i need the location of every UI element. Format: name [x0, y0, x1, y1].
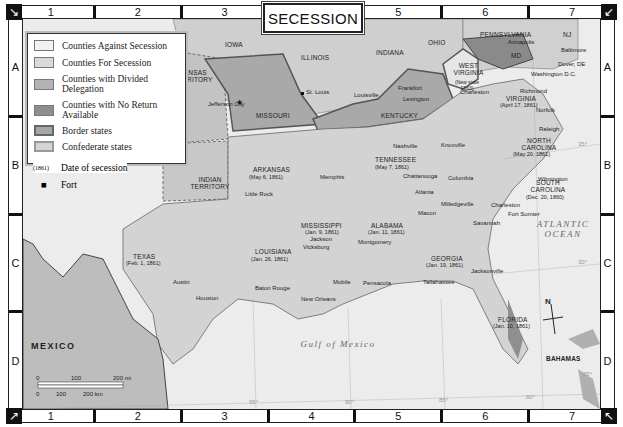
city-norfolk: Norfolk — [536, 107, 555, 113]
grid-row-d: D — [9, 313, 22, 408]
graticule-90 — [348, 309, 351, 409]
label-tennessee-date: (May 7, 1861) — [375, 164, 409, 170]
label-virginia: VIRGINIA — [506, 95, 536, 102]
legend-swatch — [34, 125, 54, 136]
label-texas-date: (Feb. 1, 1861) — [126, 260, 161, 266]
legend-swatch — [34, 57, 54, 68]
city-dot-icon — [301, 92, 304, 95]
scale-mi-0: 0 — [36, 375, 39, 381]
legend-date-label: Date of secession — [61, 163, 127, 173]
city-knoxville: Knoxville — [441, 142, 465, 148]
label-alabama: ALABAMA — [371, 222, 403, 229]
label-mississippi-date: (Jan. 9, 1861) — [305, 229, 339, 235]
city-dover: Dover, DE — [558, 61, 585, 67]
legend-fort-label: Fort — [61, 180, 77, 190]
scale-km-0: 0 — [36, 391, 39, 397]
city-raleigh: Raleigh — [539, 126, 559, 132]
grid-col-3: 3 — [183, 410, 270, 422]
scale-mi-100: 100 — [71, 375, 81, 381]
city-mobile: Mobile — [333, 279, 351, 285]
city-milledgeville: Milledgeville — [441, 201, 474, 207]
compass-rose — [543, 304, 563, 334]
label-florida-date: (Jan. 10, 1861) — [493, 323, 530, 329]
label-georgia: GEORGIA — [431, 255, 463, 262]
label-indiana: INDIANA — [376, 49, 404, 56]
label-louisiana: LOUISIANA — [255, 248, 291, 255]
city-chattanooga: Chattanooga — [403, 173, 437, 179]
grid-col-6: 6 — [443, 6, 530, 18]
legend-label: Counties For Secession — [62, 58, 151, 68]
corner-arrow-icon: ↘ — [6, 4, 22, 20]
legend-item: Counties with Divided Delegation — [34, 74, 162, 94]
grid-col-5: 5 — [356, 410, 443, 422]
legend-swatch — [34, 40, 54, 51]
city-vicksburg: Vicksburg — [303, 244, 329, 250]
city-austin: Austin — [173, 279, 190, 285]
city-jefferson-city: Jefferson City — [208, 101, 245, 107]
grid-bottom: 1 2 3 4 5 6 7 — [8, 409, 615, 423]
scale-mi-200: 200 mi — [113, 375, 131, 381]
graticule-95 — [253, 299, 256, 409]
legend-swatch — [34, 105, 54, 116]
grid-row-b: B — [601, 118, 614, 216]
label-atlantic-ocean: ATLANTIC OCEAN — [533, 219, 593, 239]
label-louisiana-date: (Jan. 26, 1861) — [251, 256, 288, 262]
city-richmond: Richmond — [520, 88, 547, 94]
label-north-carolina-date: (May 20, 1861) — [513, 151, 550, 157]
grid-col-4: 4 — [270, 410, 357, 422]
bahamas-islands — [568, 329, 600, 349]
scale-km-200: 200 km — [83, 391, 103, 397]
corner-arrow-icon: ↙ — [601, 4, 617, 20]
city-charleston: Charleston — [491, 202, 520, 208]
label-west-virginia: WEST VIRGINIA — [451, 62, 486, 76]
grid-col-5: 5 — [356, 6, 443, 18]
legend-swatch — [34, 141, 54, 152]
city-charleston-wv: Charleston — [460, 89, 489, 95]
city-frankfort: Frankfort — [398, 85, 422, 91]
label-alabama-date: (Jan. 11, 1861) — [368, 229, 405, 235]
grid-row-b: B — [9, 118, 22, 216]
graticule-85 — [441, 299, 445, 409]
label-bahamas: BAHAMAS — [546, 355, 581, 362]
graticule-label-95: 95° — [249, 399, 258, 405]
legend-label: Border states — [62, 126, 112, 136]
legend-label: Counties with No Return Available — [62, 100, 162, 120]
city-houston: Houston — [196, 295, 218, 301]
legend-label: Counties Against Secession — [62, 41, 167, 51]
city-louisville: Louisville — [354, 92, 379, 98]
city-columbia: Columbia — [448, 175, 473, 181]
grid-col-6: 6 — [443, 410, 530, 422]
city-savannah: Savannah — [473, 220, 500, 226]
label-tennessee: TENNESSEE — [375, 156, 416, 163]
graticule-label-30: 30° — [578, 259, 587, 265]
label-mexico: MEXICO — [31, 341, 76, 351]
grid-col-3: 3 — [183, 6, 270, 18]
label-indian-territory: INDIAN TERRITORY — [190, 176, 230, 190]
city-macon: Macon — [418, 210, 436, 216]
graticule-label-90: 90° — [345, 399, 354, 405]
legend-item: Counties For Secession — [34, 57, 151, 68]
city-baltimore: Baltimore — [561, 47, 586, 53]
label-ohio: OHIO — [428, 39, 445, 46]
legend-item: Border states — [34, 125, 112, 136]
city-jackson: Jackson — [310, 236, 332, 242]
grid-col-1: 1 — [9, 410, 96, 422]
label-kentucky: KENTUCKY — [381, 112, 418, 119]
city-st-louis: St. Louis — [306, 89, 329, 95]
city-baton-rouge: Baton Rouge — [255, 285, 290, 291]
label-illinois: ILLINOIS — [301, 54, 329, 61]
label-mississippi: MISSISSIPPI — [301, 222, 342, 229]
label-south-carolina-date: (Dec. 20, 1860) — [526, 194, 564, 200]
grid-col-2: 2 — [96, 410, 183, 422]
city-memphis: Memphis — [320, 174, 344, 180]
legend-item: Counties Against Secession — [34, 40, 167, 51]
grid-right: A B C D — [600, 19, 615, 409]
map-title: SECESSION — [263, 3, 363, 33]
legend-swatch — [34, 79, 54, 90]
city-atlanta: Atlanta — [415, 189, 434, 195]
label-missouri: MISSOURI — [256, 112, 290, 119]
graticule-label-85: 85° — [439, 397, 448, 403]
legend-date-symbol: (1861) — [33, 165, 61, 171]
corner-arrow-icon: ↖ — [601, 408, 617, 424]
label-arkansas-date: (May 6, 1861) — [249, 174, 283, 180]
